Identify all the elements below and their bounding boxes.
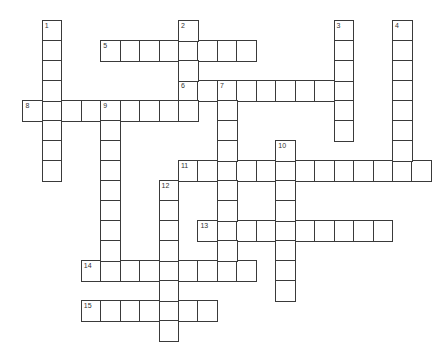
crossword-cell[interactable] (197, 260, 218, 281)
crossword-cell[interactable] (81, 100, 102, 121)
crossword-cell[interactable] (100, 160, 121, 181)
crossword-cell[interactable] (275, 200, 296, 221)
crossword-cell[interactable] (159, 260, 180, 281)
crossword-cell[interactable] (353, 160, 374, 181)
crossword-cell[interactable] (159, 280, 180, 301)
crossword-cell[interactable] (178, 40, 199, 61)
crossword-cell[interactable] (139, 40, 160, 61)
crossword-cell[interactable] (100, 300, 121, 321)
crossword-cell[interactable]: 10 (275, 140, 296, 161)
crossword-cell[interactable]: 7 (217, 80, 238, 101)
crossword-cell[interactable] (236, 220, 257, 241)
crossword-cell[interactable]: 15 (81, 300, 102, 321)
crossword-cell[interactable]: 5 (100, 40, 121, 61)
crossword-cell[interactable] (334, 40, 355, 61)
crossword-cell[interactable] (217, 140, 238, 161)
crossword-cell[interactable] (236, 160, 257, 181)
crossword-cell[interactable] (61, 100, 82, 121)
crossword-cell[interactable] (392, 100, 413, 121)
crossword-cell[interactable] (178, 100, 199, 121)
crossword-cell[interactable] (100, 240, 121, 261)
crossword-cell[interactable] (42, 80, 63, 101)
crossword-cell[interactable] (120, 300, 141, 321)
crossword-cell[interactable]: 11 (178, 160, 199, 181)
crossword-cell[interactable] (159, 220, 180, 241)
crossword-cell[interactable] (256, 80, 277, 101)
crossword-cell[interactable] (275, 240, 296, 261)
crossword-cell[interactable] (139, 300, 160, 321)
crossword-cell[interactable] (197, 40, 218, 61)
crossword-cell[interactable] (120, 100, 141, 121)
crossword-cell[interactable] (392, 160, 413, 181)
crossword-cell[interactable] (236, 40, 257, 61)
crossword-cell[interactable] (178, 300, 199, 321)
crossword-cell[interactable] (236, 80, 257, 101)
crossword-cell[interactable] (275, 180, 296, 201)
crossword-cell[interactable] (42, 100, 63, 121)
crossword-cell[interactable] (100, 260, 121, 281)
crossword-cell[interactable] (197, 300, 218, 321)
crossword-cell[interactable] (159, 40, 180, 61)
crossword-cell[interactable]: 4 (392, 20, 413, 41)
crossword-cell[interactable] (217, 200, 238, 221)
crossword-cell[interactable] (295, 80, 316, 101)
crossword-cell[interactable] (275, 220, 296, 241)
crossword-cell[interactable] (159, 200, 180, 221)
crossword-cell[interactable] (42, 140, 63, 161)
crossword-cell[interactable] (120, 260, 141, 281)
crossword-cell[interactable] (275, 260, 296, 281)
crossword-cell[interactable] (159, 320, 180, 341)
crossword-cell[interactable] (139, 260, 160, 281)
crossword-cell[interactable] (295, 160, 316, 181)
crossword-cell[interactable] (217, 220, 238, 241)
crossword-cell[interactable] (197, 160, 218, 181)
crossword-cell[interactable] (353, 220, 374, 241)
crossword-cell[interactable] (100, 120, 121, 141)
crossword-cell[interactable] (217, 260, 238, 281)
crossword-cell[interactable] (314, 160, 335, 181)
crossword-cell[interactable] (392, 60, 413, 81)
crossword-cell[interactable] (217, 240, 238, 261)
crossword-cell[interactable] (120, 40, 141, 61)
crossword-cell[interactable] (275, 160, 296, 181)
crossword-cell[interactable] (256, 160, 277, 181)
crossword-cell[interactable] (100, 220, 121, 241)
crossword-cell[interactable] (100, 140, 121, 161)
crossword-cell[interactable] (392, 80, 413, 101)
crossword-cell[interactable]: 14 (81, 260, 102, 281)
crossword-cell[interactable] (314, 80, 335, 101)
crossword-cell[interactable] (217, 160, 238, 181)
crossword-cell[interactable] (256, 220, 277, 241)
crossword-cell[interactable] (334, 60, 355, 81)
crossword-cell[interactable] (100, 200, 121, 221)
crossword-cell[interactable] (42, 40, 63, 61)
crossword-cell[interactable] (334, 120, 355, 141)
crossword-cell[interactable]: 3 (334, 20, 355, 41)
crossword-cell[interactable] (159, 100, 180, 121)
crossword-cell[interactable] (217, 120, 238, 141)
crossword-cell[interactable] (373, 160, 394, 181)
crossword-cell[interactable]: 9 (100, 100, 121, 121)
crossword-cell[interactable] (373, 220, 394, 241)
crossword-cell[interactable] (42, 60, 63, 81)
crossword-cell[interactable] (139, 100, 160, 121)
crossword-cell[interactable] (392, 140, 413, 161)
crossword-cell[interactable] (159, 300, 180, 321)
crossword-cell[interactable] (275, 280, 296, 301)
crossword-cell[interactable] (217, 100, 238, 121)
crossword-cell[interactable] (392, 40, 413, 61)
crossword-cell[interactable]: 13 (197, 220, 218, 241)
crossword-cell[interactable] (392, 120, 413, 141)
crossword-cell[interactable] (334, 80, 355, 101)
crossword-cell[interactable]: 2 (178, 20, 199, 41)
crossword-cell[interactable] (334, 100, 355, 121)
crossword-cell[interactable] (217, 180, 238, 201)
crossword-cell[interactable] (334, 160, 355, 181)
crossword-cell[interactable] (334, 220, 355, 241)
crossword-cell[interactable] (159, 240, 180, 261)
crossword-cell[interactable] (197, 80, 218, 101)
crossword-cell[interactable] (42, 160, 63, 181)
crossword-cell[interactable] (178, 260, 199, 281)
crossword-cell[interactable] (236, 260, 257, 281)
crossword-cell[interactable] (100, 180, 121, 201)
